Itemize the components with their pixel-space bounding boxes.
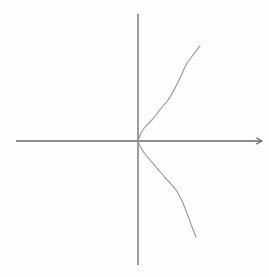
figure-canvas [0, 0, 269, 277]
plot-background [0, 0, 269, 277]
coordinate-plot [0, 0, 269, 277]
